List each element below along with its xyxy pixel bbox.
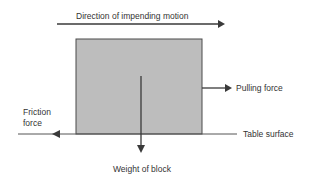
block (76, 39, 202, 134)
weight-label: Weight of block (113, 164, 171, 174)
motion-label: Direction of impending motion (76, 11, 188, 21)
pulling-arrow (202, 84, 232, 92)
friction-force-label-line2: force (23, 118, 42, 128)
table-surface-label: Table surface (243, 129, 294, 139)
friction-force-label-line1: Friction (23, 107, 51, 117)
motion-arrow (57, 20, 225, 28)
friction-arrow (52, 130, 60, 138)
pulling-force-label: Pulling force (236, 83, 283, 93)
